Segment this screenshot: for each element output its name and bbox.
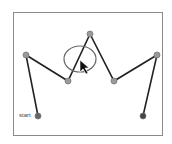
point-handle[interactable] (154, 52, 160, 58)
point-handle[interactable] (23, 52, 29, 58)
start-label: start (19, 112, 31, 118)
point-handle[interactable] (65, 78, 71, 84)
point-handle[interactable] (87, 31, 93, 37)
point-handle[interactable] (111, 78, 117, 84)
path-line[interactable] (26, 34, 157, 116)
start-point-handle[interactable] (35, 113, 41, 119)
path-canvas[interactable] (0, 0, 172, 144)
end-point-handle[interactable] (140, 113, 146, 119)
